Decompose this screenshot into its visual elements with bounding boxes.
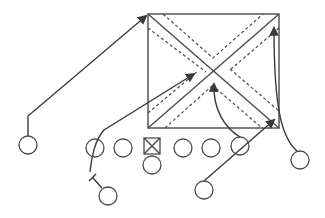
player-quarterback	[143, 156, 161, 174]
zone-dash-a-upper	[163, 14, 263, 58]
routes	[28, 16, 297, 188]
route-lineman-1	[90, 74, 194, 172]
player-back-left	[99, 187, 117, 205]
player-lineman-2	[114, 139, 132, 157]
player-tight-end	[231, 137, 249, 155]
route-left-receiver	[28, 16, 146, 136]
player-back-right	[195, 181, 213, 199]
players	[19, 136, 309, 205]
route-right-receiver	[274, 28, 297, 151]
player-lineman-4	[174, 139, 192, 157]
player-lineman-1	[86, 139, 104, 157]
player-right-receiver	[291, 151, 309, 169]
zone-dash-a-right	[230, 69, 279, 111]
player-left-receiver	[19, 136, 37, 154]
zone-dash-a-lower	[148, 28, 206, 72]
route-tight-end	[214, 84, 240, 137]
coverage-zone	[148, 14, 279, 128]
route-back-left-block	[93, 178, 102, 188]
player-center	[144, 138, 160, 154]
play-diagram	[0, 0, 325, 218]
player-lineman-5	[202, 139, 220, 157]
